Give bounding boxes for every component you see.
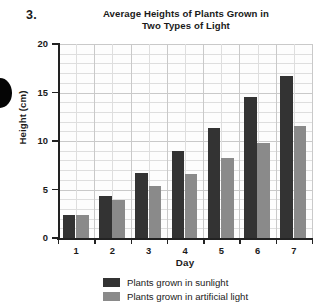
plot-area — [58, 44, 312, 238]
y-axis-tick-label-text: 0 — [20, 232, 48, 243]
chart-title: Average Heights of Plants Grown in Two T… — [72, 8, 300, 33]
x-axis-tick — [239, 239, 240, 244]
y-axis-tick — [52, 140, 58, 141]
y-axis-tick — [52, 43, 58, 44]
x-axis-tick-label: 6 — [246, 245, 270, 256]
x-axis-tick — [203, 239, 204, 244]
x-axis-tick-label: 4 — [173, 245, 197, 256]
y-axis-tick — [52, 189, 58, 190]
x-axis-tick — [312, 239, 313, 244]
bar-artificial-light-day-3 — [149, 186, 162, 238]
x-axis-tick-label: 3 — [137, 245, 161, 256]
bar-artificial-light-day-2 — [112, 200, 125, 238]
legend-label: Plants grown in artificial light — [127, 291, 248, 302]
chart-legend: Plants grown in sunlightPlants grown in … — [103, 275, 323, 303]
y-axis-tick — [52, 92, 58, 93]
y-axis-tick-label-text: 15 — [20, 87, 48, 98]
x-axis-title: Day — [58, 257, 312, 268]
y-axis-tick-label: 15 — [20, 87, 48, 99]
bar-sunlight-day-2 — [99, 196, 112, 238]
chart-title-line-2: Two Types of Light — [72, 20, 300, 32]
gridline-vertical — [312, 44, 313, 238]
legend-swatch-artificial-light — [103, 292, 120, 301]
x-axis-tick-label: 5 — [209, 245, 233, 256]
y-axis-line — [58, 43, 60, 239]
bar-artificial-light-day-7 — [294, 126, 307, 238]
bar-artificial-light-day-6 — [257, 143, 270, 238]
legend-swatch-sunlight — [103, 278, 120, 287]
bar-sunlight-day-4 — [172, 151, 185, 238]
bar-sunlight-day-7 — [280, 76, 293, 238]
bar-artificial-light-day-5 — [221, 158, 234, 238]
legend-item: Plants grown in sunlight — [103, 275, 323, 289]
y-axis-tick-label: 20 — [20, 38, 48, 50]
x-axis-tick — [167, 239, 168, 244]
chart-title-line-1: Average Heights of Plants Grown in — [72, 8, 300, 20]
y-axis-tick-label: 10 — [20, 135, 48, 147]
x-axis-tick — [58, 239, 59, 244]
x-axis-tick — [94, 239, 95, 244]
x-axis-tick-label: 1 — [64, 245, 88, 256]
bar-sunlight-day-6 — [244, 97, 257, 238]
x-axis-tick — [276, 239, 277, 244]
bar-artificial-light-day-4 — [185, 174, 198, 238]
x-axis-tick — [131, 239, 132, 244]
scan-artifact-blob — [0, 78, 12, 108]
y-axis-tick-label: 0 — [20, 232, 48, 244]
bar-sunlight-day-3 — [135, 173, 148, 238]
x-axis-tick-label: 7 — [282, 245, 306, 256]
bar-sunlight-day-1 — [63, 215, 76, 238]
legend-label: Plants grown in sunlight — [127, 277, 228, 288]
y-axis-tick-label: 5 — [20, 184, 48, 196]
y-axis-tick-label-text: 10 — [20, 135, 48, 146]
bar-artificial-light-day-1 — [76, 215, 89, 238]
y-axis-tick-label-text: 5 — [20, 184, 48, 195]
legend-item: Plants grown in artificial light — [103, 289, 323, 303]
x-axis-tick-label: 2 — [100, 245, 124, 256]
y-axis-tick-label-text: 20 — [20, 38, 48, 49]
problem-number: 3. — [26, 8, 37, 22]
bar-sunlight-day-5 — [208, 128, 221, 238]
